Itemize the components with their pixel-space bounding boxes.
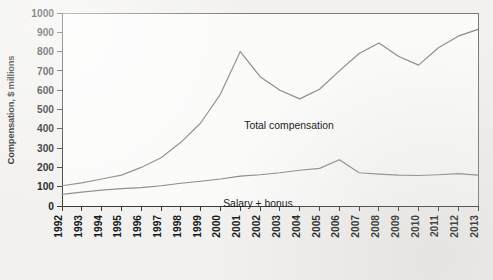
chart-container: Compensation, $ millions 010020030040050… bbox=[0, 0, 493, 280]
x-tick-label: 2009 bbox=[390, 215, 401, 238]
x-tick-label: 2008 bbox=[370, 215, 381, 238]
x-tick-label: 1995 bbox=[112, 215, 123, 238]
x-tick-label: 2002 bbox=[251, 215, 262, 238]
y-axis-label: Compensation, $ millions bbox=[5, 56, 16, 165]
y-tick-label: 700 bbox=[37, 66, 54, 77]
x-tick-label: 2000 bbox=[211, 215, 222, 238]
y-tick-label: 1000 bbox=[31, 8, 54, 19]
x-tick-label: 2006 bbox=[330, 215, 341, 238]
x-tick-label: 2005 bbox=[311, 215, 322, 238]
y-tick-label: 900 bbox=[37, 27, 54, 38]
y-tick-label: 400 bbox=[37, 123, 54, 134]
x-tick-label: 2003 bbox=[271, 215, 282, 238]
x-tick-label: 2004 bbox=[291, 215, 302, 238]
x-tick-label: 2007 bbox=[350, 215, 361, 238]
x-tick-label: 2012 bbox=[449, 215, 460, 238]
series-label-total-compensation: Total compensation bbox=[244, 120, 334, 131]
x-tick-label: 2011 bbox=[429, 215, 440, 237]
x-tick-label: 1998 bbox=[172, 215, 183, 238]
x-axis-ticks: 1992199319941995199619971998199920002001… bbox=[53, 206, 480, 238]
x-tick-label: 2010 bbox=[410, 215, 421, 238]
x-tick-label: 1994 bbox=[93, 215, 104, 238]
x-tick-label: 1999 bbox=[192, 215, 203, 238]
y-tick-label: 800 bbox=[37, 46, 54, 57]
y-tick-label: 200 bbox=[37, 162, 54, 173]
line-chart: Compensation, $ millions 010020030040050… bbox=[0, 0, 493, 280]
x-tick-label: 1993 bbox=[73, 215, 84, 238]
x-tick-label: 1992 bbox=[53, 215, 64, 238]
x-tick-label: 1996 bbox=[132, 215, 143, 238]
series-label-salary-bonus: Salary + bonus bbox=[223, 198, 293, 209]
y-tick-label: 300 bbox=[37, 143, 54, 154]
x-tick-label: 2001 bbox=[231, 215, 242, 238]
x-tick-label: 1997 bbox=[152, 215, 163, 238]
plot-area-background bbox=[62, 13, 478, 206]
y-tick-label: 500 bbox=[37, 104, 54, 115]
y-tick-label: 0 bbox=[48, 201, 54, 212]
y-tick-label: 100 bbox=[37, 181, 54, 192]
x-tick-label: 2013 bbox=[469, 215, 480, 238]
y-axis-ticks: 01002003004005006007008009001000 bbox=[31, 8, 62, 212]
y-tick-label: 600 bbox=[37, 85, 54, 96]
